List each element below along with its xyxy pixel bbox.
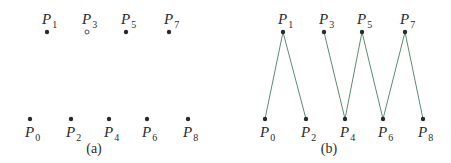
point-p2-marker bbox=[304, 117, 308, 121]
edge-p4-p5 bbox=[345, 32, 362, 119]
point-label-p7: P7 bbox=[399, 11, 415, 30]
point-label-p3: P3 bbox=[81, 11, 97, 30]
caption-a: (a) bbox=[86, 141, 102, 157]
edge-p0-p1 bbox=[265, 32, 283, 119]
panel-b: P0P1P2P3P4P5P6P7P8 (b) bbox=[259, 11, 433, 157]
point-p5-marker bbox=[124, 30, 128, 34]
point-p2-marker bbox=[69, 117, 73, 121]
point-p1-marker bbox=[281, 30, 285, 34]
point-label-p2: P2 bbox=[300, 124, 316, 143]
point-label-p8: P8 bbox=[417, 124, 433, 143]
point-p7-marker bbox=[403, 30, 407, 34]
point-label-p0: P0 bbox=[24, 124, 40, 143]
point-label-p2: P2 bbox=[65, 124, 81, 143]
panel-a: P0P1P2P3P4P5P6P7P8 (a) bbox=[24, 11, 198, 157]
point-label-p1: P1 bbox=[41, 11, 57, 30]
point-label-p8: P8 bbox=[182, 124, 198, 143]
point-p7-marker bbox=[167, 30, 171, 34]
edge-p6-p7 bbox=[383, 32, 405, 119]
point-p8-marker bbox=[421, 117, 425, 121]
edge-p1-p2 bbox=[283, 32, 306, 119]
point-p5-marker bbox=[360, 30, 364, 34]
point-label-p4: P4 bbox=[103, 124, 119, 143]
point-label-p6: P6 bbox=[141, 124, 157, 143]
edges-b bbox=[265, 32, 423, 119]
point-label-p4: P4 bbox=[339, 124, 355, 143]
diagram-canvas: P0P1P2P3P4P5P6P7P8 (a) P0P1P2P3P4P5P6P7P… bbox=[0, 0, 451, 163]
points-a: P0P1P2P3P4P5P6P7P8 bbox=[24, 11, 198, 143]
edge-p5-p6 bbox=[362, 32, 383, 119]
point-p4-marker bbox=[107, 117, 111, 121]
caption-b: (b) bbox=[321, 141, 338, 157]
point-p3-marker bbox=[322, 30, 326, 34]
edge-p3-p4 bbox=[324, 32, 345, 119]
point-label-p3: P3 bbox=[318, 11, 334, 30]
point-p6-marker bbox=[145, 117, 149, 121]
point-p6-marker bbox=[381, 117, 385, 121]
point-label-p5: P5 bbox=[356, 11, 372, 30]
point-p1-marker bbox=[45, 30, 49, 34]
point-label-p5: P5 bbox=[120, 11, 136, 30]
point-label-p1: P1 bbox=[277, 11, 293, 30]
edge-p7-p8 bbox=[405, 32, 423, 119]
point-p8-marker bbox=[186, 117, 190, 121]
point-p0-marker bbox=[263, 117, 267, 121]
point-label-p0: P0 bbox=[259, 124, 275, 143]
point-label-p6: P6 bbox=[377, 124, 393, 143]
point-label-p7: P7 bbox=[163, 11, 179, 30]
point-p4-marker bbox=[343, 117, 347, 121]
points-b: P0P1P2P3P4P5P6P7P8 bbox=[259, 11, 433, 143]
point-p0-marker bbox=[28, 117, 32, 121]
point-p3-marker bbox=[85, 30, 89, 34]
